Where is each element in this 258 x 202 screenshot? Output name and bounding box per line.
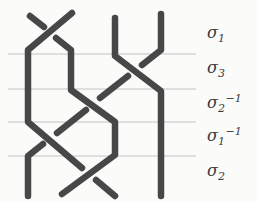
strand3-over-main-over — [115, 18, 161, 196]
braid-label-subscript-4: 1 — [218, 135, 225, 148]
braid-label-5: σ2 — [207, 161, 225, 183]
braid-label-1: σ1 — [207, 23, 225, 45]
strand4-under-bottom-under — [28, 144, 43, 196]
braid-label-subscript-3: 2 — [217, 102, 225, 115]
braid-label-superscript-4: −1 — [225, 125, 241, 138]
strand4-under-mid-under — [100, 76, 128, 98]
strand1-over-main-over — [56, 38, 115, 194]
braid-label-3: σ2−1 — [207, 92, 242, 115]
braid-label-subscript-2: 3 — [218, 67, 225, 80]
braid-label-subscript-5: 2 — [217, 170, 225, 183]
braid-label-subscript-1: 1 — [218, 32, 225, 45]
braid-diagram: σ1σ3σ2−1σ1−1σ2 — [0, 0, 258, 202]
braid-label-superscript-3: −1 — [225, 92, 241, 105]
braid-figure: σ1σ3σ2−1σ1−1σ2 — [0, 0, 258, 202]
strand1-under-sigma1-under — [30, 16, 44, 27]
strand4-under-top-under — [142, 14, 161, 65]
braid-label-2: σ3 — [207, 58, 225, 80]
braid-label-4: σ1−1 — [207, 125, 242, 148]
strand2-under-sigma2-under — [96, 180, 115, 196]
